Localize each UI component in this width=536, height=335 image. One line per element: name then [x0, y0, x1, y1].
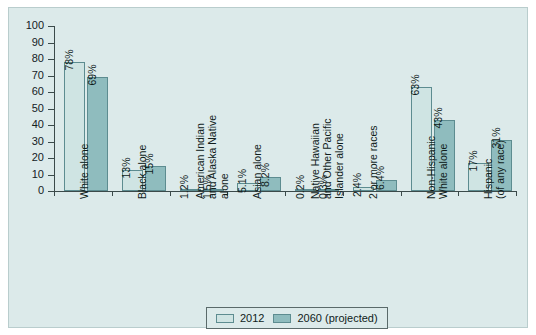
y-tick-label: 10 — [32, 168, 44, 181]
x-category-label-line: Black alone — [136, 145, 148, 199]
x-category-label-line: and Other Pacific — [321, 118, 333, 199]
x-tick — [458, 191, 459, 196]
x-category-label-line: Islander alone — [333, 118, 345, 199]
x-category-label-line: (of any race) — [494, 140, 506, 199]
legend-swatch-2012 — [216, 314, 234, 323]
y-tick-label: 50 — [32, 102, 44, 115]
bar-value-label: 69% — [87, 65, 98, 86]
y-tick: 70 — [48, 76, 54, 77]
y-tick-label: 0 — [38, 184, 44, 197]
bar-value-label: 78% — [64, 50, 75, 71]
y-tick: 10 — [48, 175, 54, 176]
y-tick: 80 — [48, 59, 54, 60]
y-tick-label: 100 — [26, 19, 44, 32]
y-tick-label: 60 — [32, 85, 44, 98]
bar-value-label: 63% — [410, 75, 421, 96]
legend-item-2012: 2012 — [216, 312, 264, 324]
x-category-label-line: Hispanic — [482, 140, 494, 199]
x-category-label: 2 or more races — [367, 125, 379, 199]
x-category-label-line: alone — [218, 115, 230, 199]
x-category-label-line: Native Hawaiian — [309, 118, 321, 199]
x-tick — [285, 191, 286, 196]
bar-value-label: 17% — [468, 150, 479, 171]
x-category-label-line: and Alaska Native — [206, 115, 218, 199]
legend-swatch-2060 — [273, 314, 291, 323]
y-tick-label: 70 — [32, 69, 44, 82]
x-category-label: Black alone — [136, 145, 148, 199]
x-tick — [112, 191, 113, 196]
x-category-label-line: Asian alone — [251, 144, 263, 199]
x-tick — [170, 191, 171, 196]
x-category-label-line: American Indian — [194, 115, 206, 199]
bar-value-label: 43% — [433, 108, 444, 129]
y-tick-label: 20 — [32, 151, 44, 164]
y-tick-label: 90 — [32, 36, 44, 49]
legend-item-2060: 2060 (projected) — [273, 312, 377, 324]
y-axis-line — [54, 26, 55, 191]
x-category-label-line: Non-Hispanic — [425, 136, 437, 199]
x-category-label-line: White alone — [437, 136, 449, 199]
x-category-label: Native Hawaiianand Other PacificIslander… — [309, 118, 345, 199]
chart-figure: 0102030405060708090100 78%69%13%15%1.2%1… — [8, 7, 528, 328]
y-tick: 20 — [48, 158, 54, 159]
x-category-label: Non-HispanicWhite alone — [425, 136, 449, 199]
x-tick — [401, 191, 402, 196]
bar-value-label: 5.1% — [237, 169, 248, 193]
bar-value-label: 0.2% — [295, 175, 306, 199]
bar-value-label: 2.4% — [352, 173, 363, 197]
y-tick-label: 30 — [32, 135, 44, 148]
x-tick — [54, 191, 55, 196]
x-tick — [516, 191, 517, 196]
y-tick-label: 80 — [32, 52, 44, 65]
x-category-label: White alone — [78, 144, 90, 199]
x-category-label: Asian alone — [251, 144, 263, 199]
chart-legend: 2012 2060 (projected) — [206, 307, 388, 329]
bar: 8.2% — [260, 177, 281, 191]
legend-label-2012: 2012 — [240, 312, 264, 324]
y-tick: 50 — [48, 109, 54, 110]
legend-label-2060: 2060 (projected) — [297, 312, 377, 324]
bar: 69% — [87, 77, 108, 191]
x-category-label: American Indianand Alaska Nativealone — [194, 115, 230, 199]
x-category-label: Hispanic(of any race) — [482, 140, 506, 199]
x-category-label-line: White alone — [78, 144, 90, 199]
x-category-label-line: 2 or more races — [367, 125, 379, 199]
y-tick: 60 — [48, 92, 54, 93]
y-tick-label: 40 — [32, 118, 44, 131]
y-tick: 40 — [48, 125, 54, 126]
bar-value-label: 13% — [121, 157, 132, 178]
y-tick: 30 — [48, 142, 54, 143]
bar-value-label: 1.2% — [179, 175, 190, 199]
y-tick: 100 — [48, 26, 54, 27]
y-tick: 90 — [48, 43, 54, 44]
